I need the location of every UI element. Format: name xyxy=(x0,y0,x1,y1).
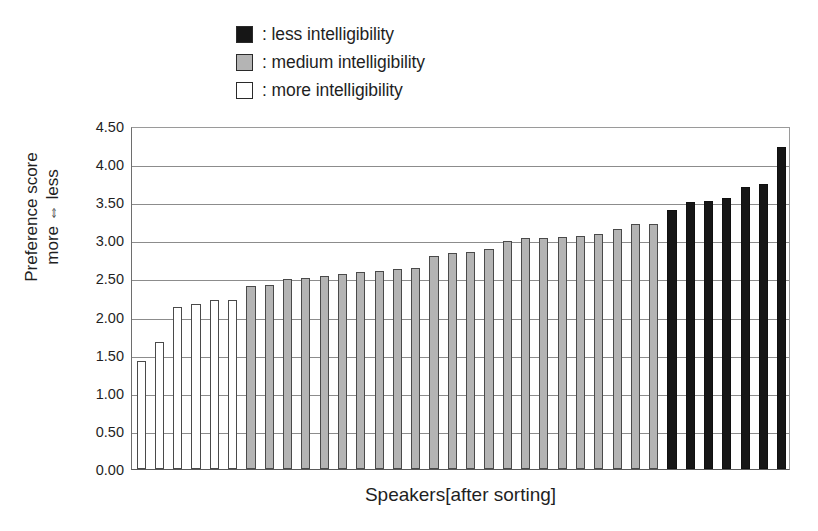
y-axis-tick-labels: 4.504.003.503.002.502.001.501.000.500.00 xyxy=(78,127,124,470)
bar-29 xyxy=(649,224,658,469)
y-axis-tick-3.50: 3.50 xyxy=(78,196,124,211)
bar-15 xyxy=(393,269,402,469)
bar-26 xyxy=(594,234,603,469)
y-axis-tick-2.00: 2.00 xyxy=(78,311,124,326)
y-axis-tick-3.00: 3.00 xyxy=(78,234,124,249)
bar-27 xyxy=(613,229,622,469)
y-axis-tick-0.00: 0.00 xyxy=(78,463,124,478)
bar-18 xyxy=(448,253,457,469)
bar-35 xyxy=(759,184,768,469)
y-axis-tick-4.00: 4.00 xyxy=(78,158,124,173)
bar-3 xyxy=(173,307,182,469)
y-axis-label-line1: Preference score xyxy=(22,152,41,281)
bar-36 xyxy=(777,147,786,469)
bar-chart: Preference score more ⇔ less 4.504.003.5… xyxy=(0,0,818,531)
bar-series-container xyxy=(132,128,789,469)
y-axis-tick-1.00: 1.00 xyxy=(78,387,124,402)
y-axis-label: Preference score more ⇔ less xyxy=(21,97,63,337)
plot-area xyxy=(131,127,790,470)
bar-33 xyxy=(722,198,731,469)
bar-19 xyxy=(466,252,475,469)
bar-14 xyxy=(375,271,384,469)
bar-13 xyxy=(356,272,365,469)
y-axis-tick-4.50: 4.50 xyxy=(78,120,124,135)
bar-17 xyxy=(429,256,438,469)
bar-20 xyxy=(484,249,493,469)
bar-11 xyxy=(320,276,329,469)
bar-10 xyxy=(301,278,310,469)
bar-1 xyxy=(137,361,146,469)
bar-24 xyxy=(558,237,567,469)
bar-12 xyxy=(338,274,347,469)
bar-31 xyxy=(686,202,695,469)
bar-21 xyxy=(503,241,512,469)
bar-9 xyxy=(283,279,292,469)
y-axis-tick-2.50: 2.50 xyxy=(78,272,124,287)
bar-8 xyxy=(265,285,274,469)
bar-16 xyxy=(411,268,420,469)
y-axis-tick-0.50: 0.50 xyxy=(78,425,124,440)
y-axis-label-line2: more ⇔ less xyxy=(42,97,63,337)
bar-28 xyxy=(631,224,640,469)
bar-30 xyxy=(667,210,676,469)
x-axis-label: Speakers[after sorting] xyxy=(131,484,790,506)
bar-25 xyxy=(576,236,585,469)
y-axis-tick-1.50: 1.50 xyxy=(78,349,124,364)
bar-32 xyxy=(704,201,713,469)
bar-34 xyxy=(741,187,750,469)
bar-7 xyxy=(246,286,255,469)
bar-2 xyxy=(155,342,164,469)
bar-6 xyxy=(228,300,237,469)
bar-4 xyxy=(191,304,200,469)
bar-5 xyxy=(210,300,219,469)
bar-23 xyxy=(539,238,548,469)
bar-22 xyxy=(521,238,530,469)
